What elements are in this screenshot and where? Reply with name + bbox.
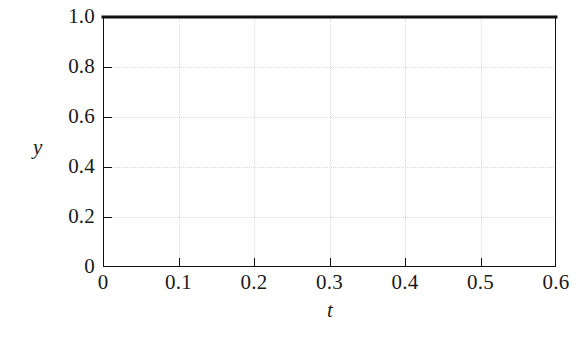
x-axis-tick bbox=[254, 258, 255, 267]
y-axis-title: y bbox=[33, 137, 42, 158]
y-tick-label: 0 bbox=[84, 256, 95, 277]
x-tick-label: 0.1 bbox=[165, 272, 192, 293]
x-tick-label: 0.6 bbox=[543, 272, 570, 293]
x-axis-tick bbox=[481, 258, 482, 267]
plot-area-frame bbox=[103, 17, 556, 267]
y-axis-tick bbox=[103, 217, 112, 218]
chart-figure: 00.20.40.60.81.000.10.20.30.40.50.6 y t bbox=[0, 0, 585, 339]
x-axis-title: t bbox=[327, 300, 333, 321]
x-tick-label: 0.2 bbox=[241, 272, 268, 293]
y-axis-tick bbox=[103, 117, 112, 118]
x-tick-label: 0.5 bbox=[467, 272, 494, 293]
x-tick-label: 0.4 bbox=[392, 272, 419, 293]
y-tick-label: 0.8 bbox=[68, 56, 95, 77]
y-tick-label: 1.0 bbox=[68, 6, 95, 27]
x-axis-tick bbox=[405, 258, 406, 267]
y-tick-label: 0.2 bbox=[68, 206, 95, 227]
y-axis-tick bbox=[103, 167, 112, 168]
x-axis-tick bbox=[330, 258, 331, 267]
x-axis-tick bbox=[179, 258, 180, 267]
x-tick-label: 0.3 bbox=[316, 272, 343, 293]
x-tick-label: 0 bbox=[98, 272, 109, 293]
y-tick-label: 0.6 bbox=[68, 106, 95, 127]
y-axis-tick bbox=[103, 67, 112, 68]
y-tick-label: 0.4 bbox=[68, 156, 95, 177]
